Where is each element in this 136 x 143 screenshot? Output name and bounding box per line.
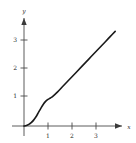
x-axis-label: x <box>127 123 131 130</box>
x-tick-label: 2 <box>70 132 74 139</box>
y-tick-label: 2 <box>13 64 17 71</box>
data-curve <box>24 31 115 126</box>
y-axis-arrow-icon <box>21 18 26 25</box>
chart-figure: 1 2 3 1 2 3 x y <box>0 0 136 143</box>
y-tick-label: 3 <box>13 36 17 43</box>
x-tick-label: 1 <box>46 132 50 139</box>
x-tick-label: 3 <box>94 132 98 139</box>
y-axis-label: y <box>21 7 26 15</box>
x-axis-arrow-icon <box>115 123 122 128</box>
plot-area: 1 2 3 1 2 3 x y <box>0 0 136 143</box>
y-tick-label: 1 <box>13 92 17 99</box>
